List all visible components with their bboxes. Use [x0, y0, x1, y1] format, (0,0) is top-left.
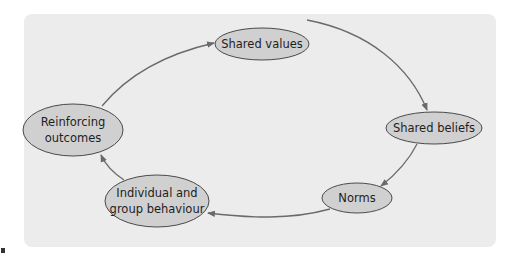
node-norms-label: Norms	[338, 191, 375, 205]
node-reinforcing-label-line1: Reinforcing	[41, 115, 106, 129]
node-shared-beliefs: Shared beliefs	[386, 112, 482, 144]
node-individual-group-behaviour: Individual and group behaviour	[105, 175, 209, 227]
node-reinforcing-label-line2: outcomes	[45, 131, 101, 145]
edge-behaviour-to-reinforcing	[101, 155, 124, 180]
edge-shared-beliefs-to-norms	[381, 144, 417, 186]
node-behaviour-label-line1: Individual and	[116, 186, 197, 200]
node-reinforcing-outcomes: Reinforcing outcomes	[23, 104, 123, 156]
node-shared-beliefs-label: Shared beliefs	[393, 121, 475, 135]
node-shared-values: Shared values	[215, 28, 309, 60]
culture-cycle-diagram: Shared values Shared beliefs Norms Indiv…	[0, 0, 519, 259]
edge-shared-values-to-shared-beliefs	[307, 20, 427, 110]
edge-norms-to-behaviour	[208, 209, 330, 217]
node-behaviour-label-line2: group behaviour	[110, 202, 205, 216]
node-norms: Norms	[322, 183, 392, 213]
edge-reinforcing-to-shared-values	[102, 43, 214, 106]
node-shared-values-label: Shared values	[221, 37, 303, 51]
